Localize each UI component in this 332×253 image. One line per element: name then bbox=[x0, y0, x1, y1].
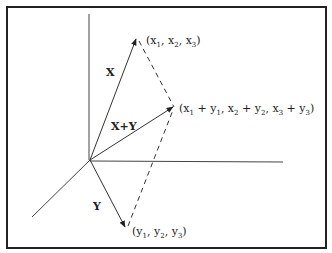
x-axis bbox=[32, 160, 90, 217]
vector-x-arrow bbox=[90, 39, 136, 160]
label-point-sum: (x1 + y1, x2 + y2, x3 + y3) bbox=[179, 102, 314, 117]
dashed-edge-x-to-sum bbox=[139, 41, 174, 107]
label-vector-y: Y bbox=[92, 200, 101, 213]
vector-sum-arrow bbox=[90, 107, 173, 160]
label-point-y: (y1, y2, y3) bbox=[132, 225, 187, 240]
vector-y-arrow bbox=[90, 160, 125, 227]
vector-addition-diagram: X X+Y Y (x1, x2, x3) (x1 + y1, x2 + y2, … bbox=[0, 0, 332, 253]
label-vector-x: X bbox=[106, 66, 115, 79]
y-axis bbox=[90, 161, 283, 162]
label-point-x: (x1, x2, x3) bbox=[146, 34, 201, 49]
label-vector-sum: X+Y bbox=[111, 120, 137, 133]
